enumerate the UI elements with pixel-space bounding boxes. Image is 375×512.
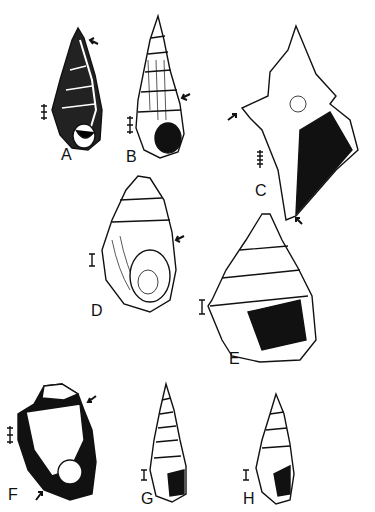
scale-bar-h [243,470,249,480]
shell-plate-drawing [0,0,375,512]
figure-label-g: G [141,490,153,508]
shell-h [243,394,294,504]
arrow-b [182,94,190,100]
scale-bar-b [127,116,133,134]
scale-bar-g [141,470,147,480]
shell-d [89,176,184,312]
shell-f [7,384,96,500]
scale-bar-e [199,300,205,314]
shell-e [199,214,316,362]
scale-bar-d [89,254,95,266]
figure-label-f: F [8,486,18,504]
scale-bar-c [257,150,263,168]
scale-bar-a [41,104,47,120]
figure-label-d: D [91,302,103,320]
shell-c [228,26,358,224]
arrow-f-lower [36,492,42,500]
arrow-c-upper [228,114,236,120]
figure-label-a: A [61,146,72,164]
arrow-f-upper [88,396,96,402]
figure-label-e: E [229,350,240,368]
shell-b [127,16,190,158]
arrow-a [90,38,98,44]
shell-a [41,28,102,150]
arrow-d [176,236,184,242]
scale-bar-f [7,426,13,444]
arrow-c-lower [296,218,302,224]
figure-label-c: C [255,182,267,200]
figure-label-h: H [243,490,255,508]
figure-label-b: B [126,148,137,166]
shell-g [141,384,186,502]
